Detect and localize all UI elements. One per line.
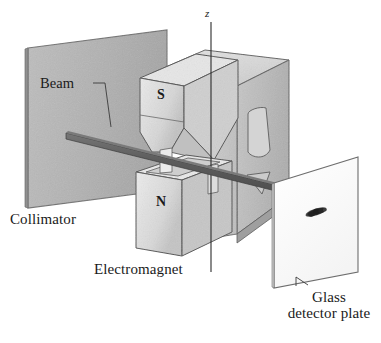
- label-z-axis: z: [205, 8, 209, 20]
- label-electromagnet: Electromagnet: [94, 261, 183, 277]
- label-collimator: Collimator: [10, 211, 76, 227]
- detector-plate-edge: [272, 183, 274, 288]
- label-north-pole: N: [156, 194, 166, 209]
- label-glass-line-2: detector plate: [277, 305, 381, 321]
- label-south-pole: S: [157, 87, 165, 102]
- label-glass-detector-plate: Glass detector plate: [277, 289, 381, 321]
- magnet-cavity-upper: [248, 107, 270, 157]
- stern-gerlach-figure: Beam Collimator Electromagnet Glass dete…: [0, 0, 381, 343]
- north-pole-front: [136, 172, 182, 256]
- label-beam: Beam: [40, 76, 74, 92]
- label-glass-line-1: Glass: [312, 289, 346, 305]
- collimator-edge: [25, 48, 28, 208]
